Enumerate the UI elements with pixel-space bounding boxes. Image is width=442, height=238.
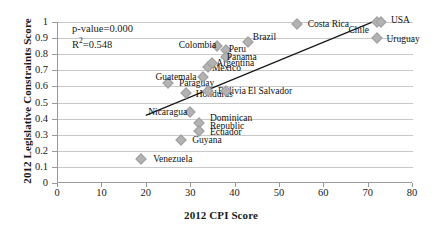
y-axis-tick-label: 0.8	[14, 49, 48, 60]
x-axis-tick-label: 50	[264, 188, 294, 199]
y-axis-tick-label: 0.3	[14, 130, 48, 141]
y-axis-tick-mark	[52, 54, 57, 55]
y-axis-tick-label: 0.2	[14, 146, 48, 157]
data-point-label: Uruguay	[387, 35, 420, 45]
x-axis-tick-mark	[235, 183, 236, 187]
p-value-text: p-value=0.000	[72, 22, 133, 36]
x-axis-tick-label: 0	[42, 188, 72, 199]
y-axis-tick-mark	[52, 70, 57, 71]
x-axis-tick-mark	[279, 183, 280, 187]
data-point-label: Costa Rica	[308, 20, 349, 30]
gridline	[58, 167, 413, 168]
y-axis-tick-label: 0.6	[14, 81, 48, 92]
data-point-label: USA	[391, 16, 410, 26]
data-point-label: Ecuador	[210, 128, 242, 138]
y-axis-tick-label: 0	[14, 178, 48, 189]
y-axis-tick-mark	[52, 38, 57, 39]
x-axis-tick-mark	[368, 183, 369, 187]
y-axis-tick-label: 0.5	[14, 98, 48, 109]
data-point-label: Nicaragua	[148, 108, 187, 118]
x-axis-title: 2012 CPI Score	[0, 209, 442, 221]
y-axis-tick-mark	[52, 103, 57, 104]
data-point-label: Colombia	[179, 41, 216, 51]
x-axis-tick-label: 20	[131, 188, 161, 199]
x-axis-tick-label: 30	[175, 188, 205, 199]
y-axis-tick-mark	[52, 167, 57, 168]
data-point-label: Venezuela	[153, 155, 192, 165]
data-point-label: El Salvador	[248, 87, 293, 97]
gridline	[58, 103, 413, 104]
y-axis-tick-label: 0.4	[14, 114, 48, 125]
x-axis-tick-mark	[101, 183, 102, 187]
r-squared-value: =0.548	[83, 39, 113, 50]
x-axis-tick-mark	[190, 183, 191, 187]
y-axis-tick-mark	[52, 22, 57, 23]
x-axis-tick-label: 40	[220, 188, 250, 199]
r-squared-prefix: R	[72, 39, 79, 50]
data-point-label: Chile	[349, 26, 370, 36]
gridline	[58, 151, 413, 152]
x-axis-tick-label: 60	[308, 188, 338, 199]
y-axis-tick-label: 0.9	[14, 33, 48, 44]
x-axis-tick-label: 10	[86, 188, 116, 199]
x-axis-tick-mark	[412, 183, 413, 187]
scatter-chart: p-value=0.000 R2=0.548 2012 CPI Score 20…	[0, 0, 442, 238]
y-axis-tick-label: 0.7	[14, 65, 48, 76]
y-axis-tick-label: 1	[14, 17, 48, 28]
y-axis-tick-label: 0.1	[14, 162, 48, 173]
data-point-label: Brazil	[253, 33, 276, 43]
y-axis-tick-mark	[52, 119, 57, 120]
x-axis-tick-mark	[146, 183, 147, 187]
x-axis-tick-mark	[323, 183, 324, 187]
statistics-annotation: p-value=0.000 R2=0.548	[72, 22, 133, 52]
y-axis-tick-mark	[52, 86, 57, 87]
x-axis-tick-label: 80	[397, 188, 427, 199]
y-axis-tick-mark	[52, 151, 57, 152]
data-point-label: Panama	[227, 53, 257, 63]
y-axis-tick-mark	[52, 135, 57, 136]
r-squared-text: R2=0.548	[72, 36, 133, 52]
x-axis-tick-label: 70	[353, 188, 383, 199]
x-axis-tick-mark	[57, 183, 58, 187]
data-point-label: Guatemala	[155, 73, 196, 83]
